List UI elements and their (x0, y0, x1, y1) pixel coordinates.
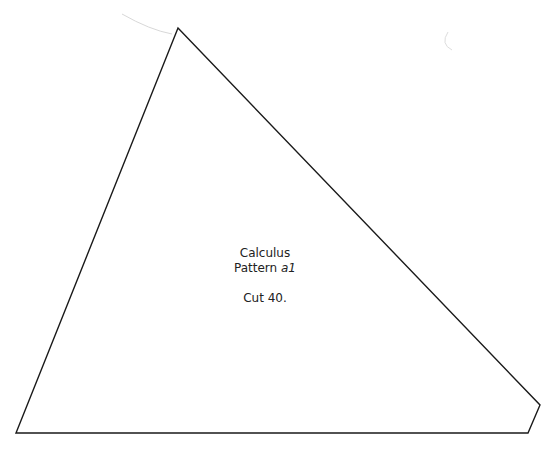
pattern-title: Calculus (206, 246, 324, 261)
faint-arc-mark-right (445, 32, 452, 50)
pattern-label: Calculus Pattern a1 Cut 40. (206, 246, 324, 306)
pattern-name-line: Pattern a1 (206, 261, 324, 276)
cut-instruction: Cut 40. (206, 291, 324, 306)
pattern-id: a1 (281, 261, 296, 275)
pattern-prefix: Pattern (234, 261, 277, 275)
spacer (206, 276, 324, 291)
pattern-shape-drawing (0, 0, 558, 465)
faint-arc-mark (122, 14, 172, 34)
pattern-page: Calculus Pattern a1 Cut 40. (0, 0, 558, 465)
pattern-piece-outline (16, 28, 540, 433)
